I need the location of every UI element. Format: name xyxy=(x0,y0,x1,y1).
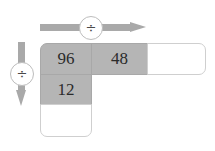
grid-cell-r2c1[interactable]: 12 xyxy=(40,74,92,105)
grid-cell-r1c3-blank[interactable] xyxy=(147,43,206,75)
horizontal-arrow-head xyxy=(130,22,146,32)
grid-cell-r1c2[interactable]: 48 xyxy=(91,43,148,75)
divide-operator-badge-vertical: ÷ xyxy=(10,62,34,86)
grid-cell-r1c1[interactable]: 96 xyxy=(40,43,92,75)
divide-operator-badge-horizontal: ÷ xyxy=(79,16,103,40)
vertical-arrow-head xyxy=(16,90,26,106)
diagram-canvas: ÷ ÷ 96 48 12 xyxy=(0,0,215,151)
grid-cell-r3c1-blank[interactable] xyxy=(40,104,92,137)
